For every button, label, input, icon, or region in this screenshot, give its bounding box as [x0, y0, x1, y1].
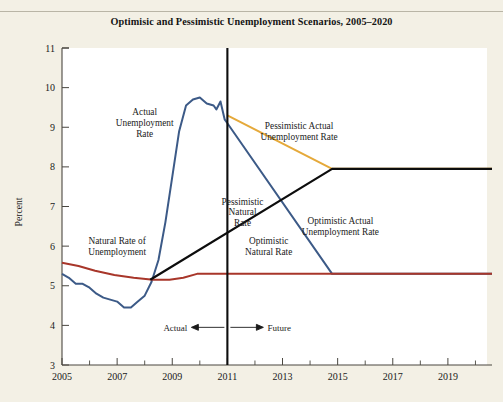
x-tick-label-2007: 2007: [107, 371, 127, 382]
chart-svg: 34567891011 2005200720092011201320152017…: [0, 0, 503, 402]
plot-area: 34567891011 2005200720092011201320152017…: [0, 0, 503, 402]
y-tick-label-6: 6: [50, 241, 55, 252]
y-tick-label-11: 11: [45, 43, 55, 54]
y-tick-label-4: 4: [50, 320, 55, 331]
y-tick-label-7: 7: [50, 201, 55, 212]
x-axis-tick-labels: 20052007200920112013201520172019: [52, 371, 458, 382]
future-label: Future: [267, 323, 291, 333]
x-tick-label-2009: 2009: [162, 371, 182, 382]
natural-rate-label: Natural Rate ofUnemployment: [88, 236, 146, 257]
actual-label: Actual: [163, 323, 187, 333]
x-tick-label-2015: 2015: [328, 371, 348, 382]
pessimistic-natural-rate-label-line-3: Rate: [234, 218, 251, 228]
y-tick-label-10: 10: [45, 82, 55, 93]
natural-rate-label-line-2: Unemployment: [88, 247, 146, 257]
pessimistic-natural-rate-label-line-1: Pessimistic: [222, 197, 264, 207]
actual-unemployment-rate-label-line-3: Rate: [136, 129, 153, 139]
pessimistic-natural-rate-label-line-2: Natural: [229, 207, 257, 217]
x-tick-label-2013: 2013: [273, 371, 293, 382]
pessimistic-actual-label-line-1: Pessimistic Actual: [265, 121, 334, 131]
optimistic-actual-label-line-2: Unemployment Rate: [302, 227, 379, 237]
y-axis-tick-labels: 34567891011: [45, 43, 55, 371]
x-tick-label-2011: 2011: [218, 371, 238, 382]
actual-unemployment-rate-label-line-1: Actual: [132, 107, 157, 117]
x-tick-label-2005: 2005: [52, 371, 72, 382]
pessimistic-actual-label-line-2: Unemployment Rate: [260, 132, 337, 142]
x-tick-label-2017: 2017: [383, 371, 403, 382]
optimistic-actual-label-line-1: Optimistic Actual: [307, 216, 373, 226]
actual-unemployment-rate-label-line-2: Unemployment: [116, 118, 174, 128]
x-tick-label-2019: 2019: [438, 371, 458, 382]
pessimistic-actual-label: Pessimistic ActualUnemployment Rate: [260, 121, 337, 142]
optimistic-natural-rate-label: OptimisticNatural Rate: [245, 236, 292, 257]
optimistic-natural-rate-label-line-1: Optimistic: [249, 236, 288, 246]
optimistic-actual-label: Optimistic ActualUnemployment Rate: [302, 216, 379, 237]
natural-rate-label-line-1: Natural Rate of: [88, 236, 146, 246]
y-axis-title: Percent: [13, 197, 24, 226]
y-tick-label-5: 5: [50, 280, 55, 291]
y-tick-label-9: 9: [50, 122, 55, 133]
figure-canvas: Optimisic and Pessimistic Unemployment S…: [0, 0, 503, 402]
optimistic-natural-rate-label-line-2: Natural Rate: [245, 247, 292, 257]
y-tick-label-3: 3: [50, 360, 55, 371]
plot-background: [62, 48, 487, 365]
y-tick-label-8: 8: [50, 161, 55, 172]
